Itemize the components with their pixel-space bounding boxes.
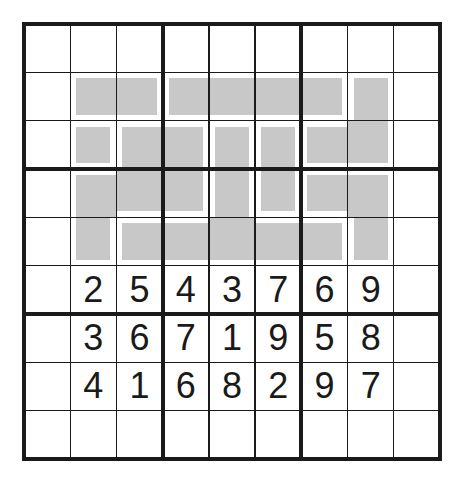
cell-r4c6[interactable] xyxy=(255,169,301,217)
box-border-line xyxy=(22,22,26,461)
cell-r3c4[interactable] xyxy=(163,121,209,169)
cell-r4c8[interactable] xyxy=(348,169,394,217)
cell-r9c9[interactable] xyxy=(394,411,440,459)
box-border-line xyxy=(438,22,442,461)
cell-r3c7[interactable] xyxy=(301,121,347,169)
cell-r6c2[interactable]: 2 xyxy=(70,266,116,314)
cell-grid-line xyxy=(22,265,442,266)
cell-r4c5[interactable] xyxy=(209,169,255,217)
cell-r2c7[interactable] xyxy=(301,72,347,120)
cell-r1c6[interactable] xyxy=(255,24,301,72)
cell-r2c5[interactable] xyxy=(209,72,255,120)
cell-r1c7[interactable] xyxy=(301,24,347,72)
cell-r1c2[interactable] xyxy=(70,24,116,72)
cell-r3c8[interactable] xyxy=(348,121,394,169)
cell-r9c6[interactable] xyxy=(255,411,301,459)
cell-r1c9[interactable] xyxy=(394,24,440,72)
cell-r5c9[interactable] xyxy=(394,217,440,265)
cell-r5c4[interactable] xyxy=(163,217,209,265)
cell-r6c1[interactable] xyxy=(24,266,70,314)
cell-r8c2[interactable]: 4 xyxy=(70,362,116,410)
cell-r4c9[interactable] xyxy=(394,169,440,217)
cell-r7c8[interactable]: 8 xyxy=(348,314,394,362)
box-border-line xyxy=(161,22,165,461)
box-border-line xyxy=(299,22,303,461)
cell-r4c4[interactable] xyxy=(163,169,209,217)
cell-r7c9[interactable] xyxy=(394,314,440,362)
cell-r8c1[interactable] xyxy=(24,362,70,410)
cell-r8c3[interactable]: 1 xyxy=(116,362,162,410)
cell-r3c1[interactable] xyxy=(24,121,70,169)
cell-r9c8[interactable] xyxy=(348,411,394,459)
cell-r2c4[interactable] xyxy=(163,72,209,120)
cell-r4c2[interactable] xyxy=(70,169,116,217)
cell-r6c4[interactable]: 4 xyxy=(163,266,209,314)
cell-r4c7[interactable] xyxy=(301,169,347,217)
cell-r7c5[interactable]: 1 xyxy=(209,314,255,362)
cell-r1c5[interactable] xyxy=(209,24,255,72)
cell-r2c1[interactable] xyxy=(24,72,70,120)
cell-r3c5[interactable] xyxy=(209,121,255,169)
cell-r6c5[interactable]: 3 xyxy=(209,266,255,314)
cell-r2c3[interactable] xyxy=(116,72,162,120)
cell-r6c6[interactable]: 7 xyxy=(255,266,301,314)
cell-grid-line xyxy=(22,410,442,411)
cell-r9c5[interactable] xyxy=(209,411,255,459)
cell-r7c2[interactable]: 3 xyxy=(70,314,116,362)
cell-r5c1[interactable] xyxy=(24,217,70,265)
cell-r6c7[interactable]: 6 xyxy=(301,266,347,314)
cell-grid-line xyxy=(254,22,255,461)
cell-r4c3[interactable] xyxy=(116,169,162,217)
cell-r7c4[interactable]: 7 xyxy=(163,314,209,362)
box-border-line xyxy=(22,22,442,26)
cell-r9c4[interactable] xyxy=(163,411,209,459)
cell-r6c8[interactable]: 9 xyxy=(348,266,394,314)
cell-r8c9[interactable] xyxy=(394,362,440,410)
cell-r9c3[interactable] xyxy=(116,411,162,459)
cell-r9c2[interactable] xyxy=(70,411,116,459)
cell-r9c1[interactable] xyxy=(24,411,70,459)
cell-grid-line xyxy=(347,22,348,461)
cell-grid-line xyxy=(22,217,442,218)
cell-grid-line xyxy=(22,72,442,73)
cell-grid-line xyxy=(116,22,117,461)
cell-r8c7[interactable]: 9 xyxy=(301,362,347,410)
cell-r3c2[interactable] xyxy=(70,121,116,169)
cell-r8c8[interactable]: 7 xyxy=(348,362,394,410)
cell-r1c8[interactable] xyxy=(348,24,394,72)
cell-r7c7[interactable]: 5 xyxy=(301,314,347,362)
cell-grid-line xyxy=(393,22,394,461)
cell-r6c9[interactable] xyxy=(394,266,440,314)
cell-grid-line xyxy=(22,362,442,363)
cell-r2c6[interactable] xyxy=(255,72,301,120)
cell-r5c7[interactable] xyxy=(301,217,347,265)
cell-r9c7[interactable] xyxy=(301,411,347,459)
cell-r3c9[interactable] xyxy=(394,121,440,169)
cell-r1c3[interactable] xyxy=(116,24,162,72)
cell-r5c5[interactable] xyxy=(209,217,255,265)
cell-r5c6[interactable] xyxy=(255,217,301,265)
cell-grid-line xyxy=(22,120,442,121)
cell-r7c1[interactable] xyxy=(24,314,70,362)
cell-r2c2[interactable] xyxy=(70,72,116,120)
cell-r5c3[interactable] xyxy=(116,217,162,265)
cell-r7c3[interactable]: 6 xyxy=(116,314,162,362)
box-border-line xyxy=(22,457,442,461)
cell-r5c2[interactable] xyxy=(70,217,116,265)
cell-r2c8[interactable] xyxy=(348,72,394,120)
cell-r1c1[interactable] xyxy=(24,24,70,72)
cell-r4c1[interactable] xyxy=(24,169,70,217)
box-border-line xyxy=(22,312,442,316)
box-border-line xyxy=(22,167,442,171)
cell-r8c6[interactable]: 2 xyxy=(255,362,301,410)
cell-r8c4[interactable]: 6 xyxy=(163,362,209,410)
cell-r7c6[interactable]: 9 xyxy=(255,314,301,362)
cell-r3c3[interactable] xyxy=(116,121,162,169)
cell-r5c8[interactable] xyxy=(348,217,394,265)
cell-r6c3[interactable]: 5 xyxy=(116,266,162,314)
cell-r2c9[interactable] xyxy=(394,72,440,120)
cell-grid-line xyxy=(208,22,209,461)
cell-r1c4[interactable] xyxy=(163,24,209,72)
cell-r3c6[interactable] xyxy=(255,121,301,169)
cell-r8c5[interactable]: 8 xyxy=(209,362,255,410)
